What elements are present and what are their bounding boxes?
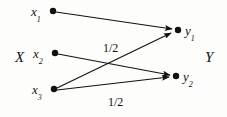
- node-label-x3-sub: 3: [38, 93, 42, 102]
- node-label-y1-sub: 1: [191, 34, 195, 43]
- edge-x1-y1: [56, 12, 172, 29]
- node-label-x2: x2: [33, 47, 43, 60]
- node-label-x3: x3: [32, 83, 42, 96]
- node-y1: [175, 27, 181, 33]
- set-label-x: X: [15, 50, 24, 65]
- set-label-y: Y: [205, 50, 213, 65]
- edge-x3-y2: [57, 77, 169, 90]
- edge-x2-y2: [58, 54, 170, 75]
- node-label-x2-sub: 2: [39, 57, 43, 66]
- node-x2: [52, 50, 58, 56]
- node-label-y2: y2: [183, 70, 193, 83]
- node-label-y2-sub: 2: [189, 80, 193, 89]
- node-x1: [50, 8, 56, 14]
- node-label-x3-base: x: [32, 82, 38, 97]
- node-label-y1: y1: [185, 24, 195, 37]
- edge-label-upper: 1/2: [103, 42, 118, 54]
- node-label-x2-base: x: [33, 46, 39, 61]
- node-label-y2-base: y: [183, 69, 189, 84]
- node-y2: [173, 73, 179, 79]
- diagram-canvas: X Y x1 x2 x3 y1 y2 1/2 1/2: [0, 0, 227, 117]
- node-x3: [51, 86, 57, 92]
- node-label-x1: x1: [31, 5, 41, 18]
- node-label-x1-sub: 1: [37, 15, 41, 24]
- node-label-y1-base: y: [185, 23, 191, 38]
- edge-label-lower: 1/2: [108, 96, 123, 108]
- node-label-x1-base: x: [31, 4, 37, 19]
